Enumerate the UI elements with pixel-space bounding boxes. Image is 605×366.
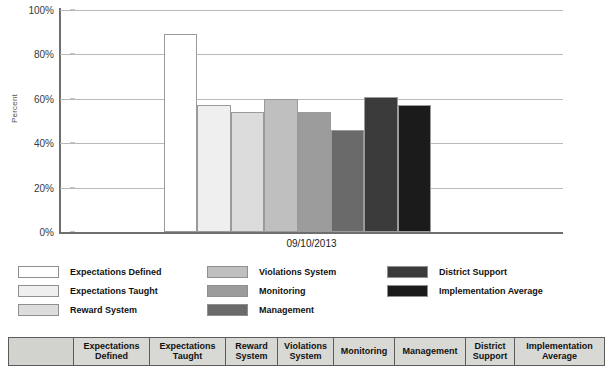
- table-column-header: Implementation Average: [515, 338, 605, 366]
- legend-swatch-icon: [387, 266, 428, 278]
- y-axis-tick-label: 40%: [14, 138, 54, 149]
- table-header-row: Expectations DefinedExpectations TaughtR…: [9, 338, 605, 366]
- legend-item-label: Reward System: [70, 305, 137, 315]
- x-axis-label: 09/10/2013: [60, 238, 563, 249]
- legend-item[interactable]: Reward System: [18, 300, 162, 319]
- bar: [197, 105, 230, 232]
- bar: [398, 105, 431, 232]
- legend-item[interactable]: Monitoring: [207, 281, 336, 300]
- y-axis-tick-label: 80%: [14, 49, 54, 60]
- y-axis-tick-label: 100%: [14, 5, 54, 16]
- y-axis-tick-label: 60%: [14, 93, 54, 104]
- x-axis-line: [59, 232, 563, 234]
- legend-column: District SupportImplementation Average: [387, 262, 543, 300]
- y-axis-tick-label: 20%: [14, 182, 54, 193]
- legend-swatch-icon: [207, 304, 248, 316]
- legend-swatch-icon: [207, 285, 248, 297]
- table-column-header: Management: [395, 338, 466, 366]
- bar: [364, 97, 397, 232]
- legend-item[interactable]: Implementation Average: [387, 281, 543, 300]
- legend-swatch-icon: [18, 285, 59, 297]
- table-corner-header: [9, 338, 74, 366]
- legend-item-label: District Support: [439, 267, 507, 277]
- y-axis-tick-label: 0%: [14, 227, 54, 238]
- table-column-header: Monitoring: [334, 338, 395, 366]
- bar: [164, 34, 197, 232]
- legend-item[interactable]: Management: [207, 300, 336, 319]
- table-column-header: Reward System: [226, 338, 278, 366]
- legend-swatch-icon: [207, 266, 248, 278]
- legend-item-label: Violations System: [259, 267, 336, 277]
- legend-item[interactable]: District Support: [387, 262, 543, 281]
- table-column-header: Violations System: [278, 338, 334, 366]
- bar: [331, 130, 364, 232]
- legend-item-label: Management: [259, 305, 314, 315]
- bar-series: [60, 10, 563, 232]
- table-column-header: Expectations Defined: [74, 338, 150, 366]
- bar-chart-figure: Percent 0%20%40%60%80%100% 09/10/2013: [0, 0, 567, 258]
- bar: [264, 99, 297, 232]
- legend-item-label: Implementation Average: [439, 286, 543, 296]
- legend-swatch-icon: [387, 285, 428, 297]
- legend-item[interactable]: Expectations Taught: [18, 281, 162, 300]
- legend-column: Violations SystemMonitoringManagement: [207, 262, 336, 319]
- legend-item[interactable]: Expectations Defined: [18, 262, 162, 281]
- y-axis-tick-labels: 0%20%40%60%80%100%: [14, 0, 54, 240]
- legend-item-label: Expectations Taught: [70, 286, 158, 296]
- bar: [298, 112, 331, 232]
- legend-swatch-icon: [18, 304, 59, 316]
- bar: [231, 112, 264, 232]
- table-column-header: Expectations Taught: [150, 338, 226, 366]
- legend-item-label: Expectations Defined: [70, 267, 162, 277]
- legend-column: Expectations DefinedExpectations TaughtR…: [18, 262, 162, 319]
- data-table: Expectations DefinedExpectations TaughtR…: [8, 337, 605, 366]
- chart-legend: Expectations DefinedExpectations TaughtR…: [0, 262, 567, 320]
- legend-swatch-icon: [18, 266, 59, 278]
- table-column-header: District Support: [466, 338, 515, 366]
- legend-item-label: Monitoring: [259, 286, 306, 296]
- legend-item[interactable]: Violations System: [207, 262, 336, 281]
